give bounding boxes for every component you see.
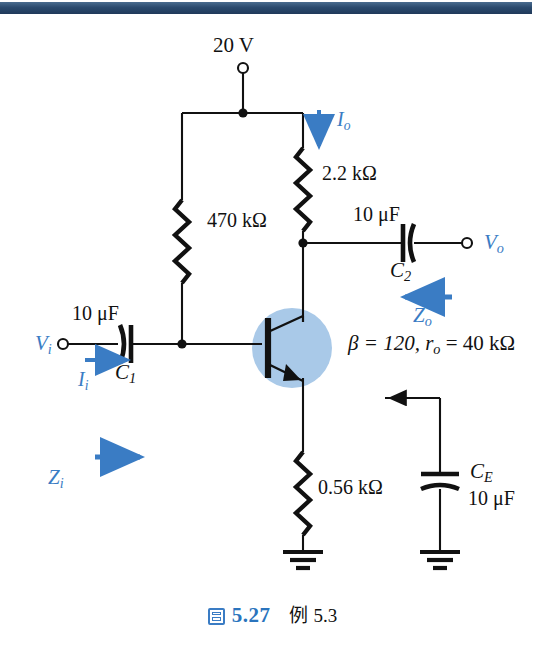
base-bias-resistor-symbol <box>175 200 189 283</box>
c2-plate-right <box>410 224 414 262</box>
emitter-resistor-symbol <box>296 452 310 535</box>
ro-parameter-sub: o <box>433 341 440 357</box>
output-terminal-circle <box>462 238 472 248</box>
ce-plate-bottom <box>421 485 459 489</box>
c2-designator-base: C <box>390 258 404 282</box>
io-base: I <box>337 108 344 130</box>
vi-sub: i <box>48 341 52 357</box>
circuit-schematic <box>0 0 545 651</box>
figure-page: 20 V 2.2 kΩ 470 kΩ 0.56 kΩ 10 μF C2 10 μ… <box>0 0 545 651</box>
ro-parameter-value: = 40 kΩ <box>446 331 515 355</box>
base-bias-resistor-label: 470 kΩ <box>207 209 267 232</box>
vo-base: V <box>484 230 497 254</box>
output-terminal-label: Vo <box>484 230 504 257</box>
c1-plate-left <box>120 325 124 363</box>
c2-value-label: 10 μF <box>353 203 400 226</box>
collector-resistor-symbol <box>296 148 310 231</box>
output-impedance-label: Zo <box>413 303 432 330</box>
vo-sub: o <box>497 240 504 256</box>
beta-parameter: β = 120, <box>348 331 420 355</box>
c2-designator: C2 <box>390 258 411 285</box>
zo-sub: o <box>425 313 432 329</box>
zi-base: Z <box>48 465 60 489</box>
collector-resistor-label: 2.2 kΩ <box>322 162 377 185</box>
supply-node-dot <box>238 108 247 117</box>
input-impedance-label: Zi <box>48 465 64 492</box>
c1-designator-sub: 1 <box>129 370 136 386</box>
input-terminal-circle <box>58 339 68 349</box>
emitter-resistor-label: 0.56 kΩ <box>318 476 383 499</box>
transistor-parameters-label: β = 120, ro = 40 kΩ <box>348 331 515 358</box>
io-sub: o <box>344 118 351 133</box>
zi-sub: i <box>60 475 64 491</box>
zo-base: Z <box>413 303 425 327</box>
figure-caption: 5.27例5.3 <box>0 600 545 628</box>
input-terminal-label: Vi <box>35 331 52 358</box>
c1-value-label: 10 μF <box>72 302 119 325</box>
base-node-dot <box>177 339 186 348</box>
figure-icon <box>208 608 225 625</box>
c1-designator-base: C <box>115 360 129 384</box>
supply-terminal-circle <box>238 63 248 73</box>
ce-designator: CE <box>470 459 493 486</box>
c2-designator-sub: 2 <box>404 268 411 284</box>
ce-value-label: 10 μF <box>468 487 515 510</box>
vi-base: V <box>35 331 48 355</box>
example-word: 例 <box>289 605 308 626</box>
ce-designator-base: C <box>470 459 484 483</box>
c1-designator: C1 <box>115 360 136 387</box>
ce-designator-sub: E <box>484 469 493 485</box>
output-current-label: Io <box>337 108 350 134</box>
supply-voltage-label: 20 V <box>213 33 254 58</box>
figure-number: 5.27 <box>232 603 271 627</box>
ii-sub: i <box>85 378 89 393</box>
ii-base: I <box>78 368 85 390</box>
example-number: 5.3 <box>314 605 338 626</box>
input-current-label: Ii <box>78 368 88 394</box>
